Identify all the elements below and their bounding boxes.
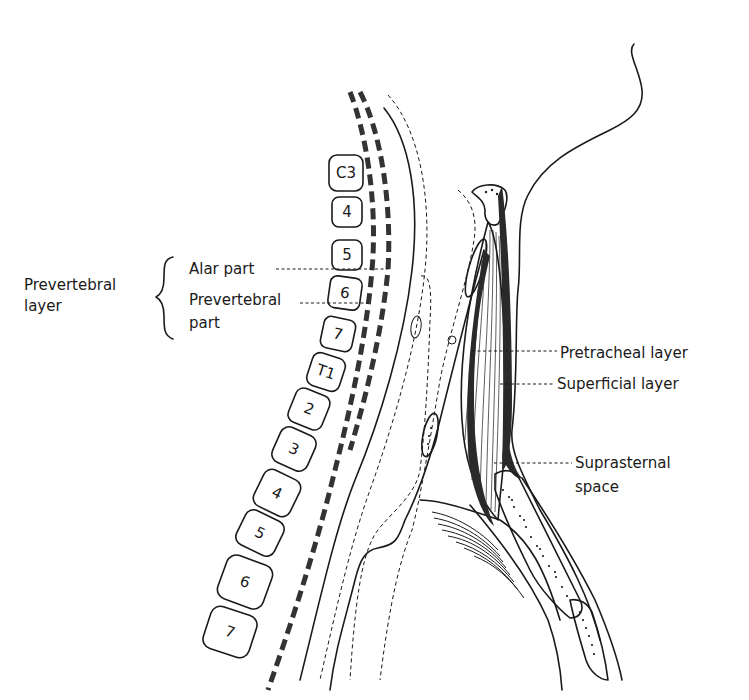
svg-text:5: 5 [342,246,352,264]
label-suprasternal-space: Suprasternal [575,454,671,472]
sternum-body [570,600,608,680]
vertebral-column: C3 4 5 6 7 T1 2 3 [200,155,363,660]
chest-wall-outer [522,478,622,680]
label-superficial-layer: Superficial layer [557,375,679,393]
vertebra-c3: C3 [329,155,363,191]
manubrium-sternum [495,471,582,618]
vertebra-t3: 3 [269,424,319,474]
label-prevertebral-part: Prevertebral [189,291,281,309]
cervical-fascia-diagram: C3 4 5 6 7 T1 2 3 [0,0,749,700]
vertebra-t1: T1 [305,351,348,394]
dot [496,193,498,195]
thymus-node [419,412,442,458]
svg-text:C3: C3 [336,164,356,182]
label-prevertebral-part-line2: part [189,314,220,332]
label-pretracheal-layer: Pretracheal layer [560,344,689,362]
dot [485,191,487,193]
trachea-solid-outline [330,250,484,690]
vertebra-t7: 7 [200,604,259,661]
vertebra-t6: 6 [215,552,276,612]
dot [427,443,429,445]
curly-brace [156,257,173,339]
vertebra-c5: 5 [332,240,362,270]
dot [428,435,430,437]
vertebra-t2: 2 [286,386,333,433]
svg-text:4: 4 [342,203,352,221]
pretracheal-fascia-band [467,250,494,526]
vertebra-c4: 4 [332,197,362,227]
dot [491,189,493,191]
label-alar-part: Alar part [189,260,254,278]
label-prevertebral-layer-line2: layer [24,297,62,315]
prevertebral-fascia-line [350,92,389,450]
small-round-structure [448,336,456,344]
vertebra-c7: 7 [319,315,357,353]
vertebra-c6: 6 [327,275,363,311]
dot [430,427,432,429]
label-prevertebral-layer: Prevertebral [24,276,116,294]
label-suprasternal-space-line2: space [575,478,619,496]
trachea-tube-outline [380,190,475,680]
bone-stipple [502,489,595,655]
